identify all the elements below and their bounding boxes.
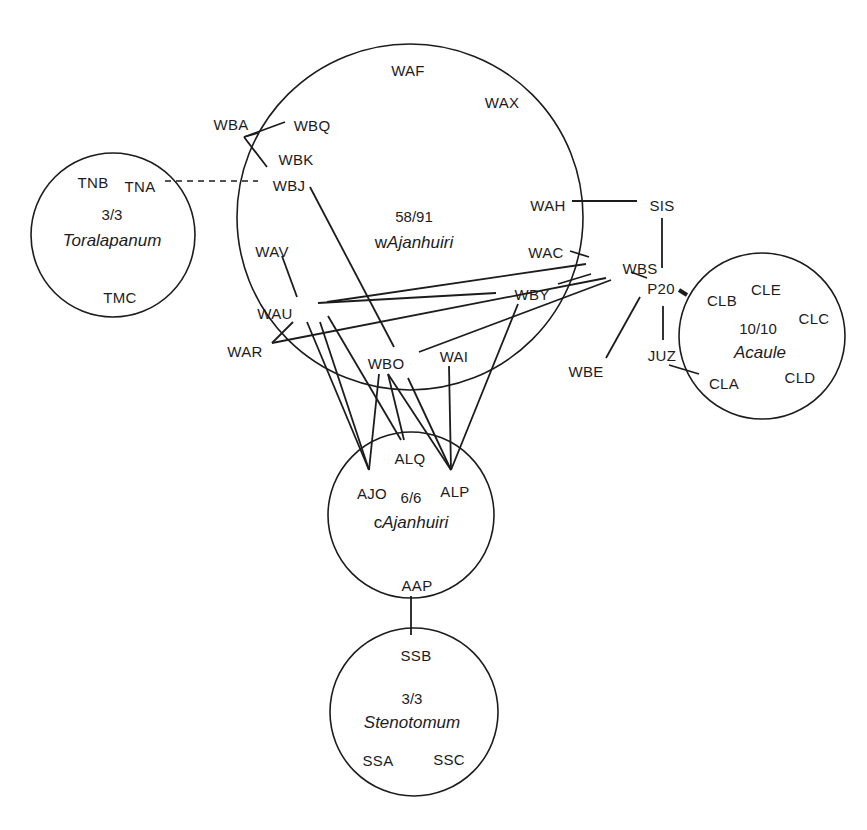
- node-ssa: SSA: [363, 752, 394, 769]
- edge-wav-wau: [282, 256, 297, 297]
- node-wai: WAI: [440, 348, 469, 365]
- node-wbk: WBK: [278, 151, 313, 168]
- group-name-text: Toralapanum: [63, 231, 162, 250]
- node-cld: CLD: [785, 369, 816, 386]
- node-clb: CLB: [707, 292, 737, 309]
- edges: [165, 122, 699, 635]
- group-circles: [31, 44, 845, 796]
- group-name-wajanhuiri: wAjanhuiri: [374, 233, 455, 252]
- edge-wau-wby: [318, 293, 496, 303]
- group-name-text: Ajanhuiri: [381, 513, 449, 532]
- node-ajo: AJO: [357, 485, 387, 502]
- group-name-text: Stenotomum: [364, 713, 460, 732]
- node-wah: WAH: [530, 197, 565, 214]
- node-war: WAR: [227, 343, 262, 360]
- diagram-svg: 58/91wAjanhuiri3/3Toralapanum10/10Acaule…: [0, 0, 867, 830]
- group-name-stenotomum: Stenotomum: [364, 713, 460, 732]
- group-count-wajanhuiri: 58/91: [395, 208, 433, 225]
- edge-p20-wbe: [606, 297, 640, 358]
- network-diagram: 58/91wAjanhuiri3/3Toralapanum10/10Acaule…: [0, 0, 867, 830]
- node-aap: AAP: [402, 577, 433, 594]
- node-alq: ALQ: [395, 450, 426, 467]
- node-clc: CLC: [799, 310, 830, 327]
- node-wau: WAU: [257, 305, 292, 322]
- group-name-cajanhuiri: cAjanhuiri: [374, 513, 450, 532]
- group-count-stenotomum: 3/3: [402, 690, 423, 707]
- group-prefix: w: [374, 233, 388, 252]
- edge-wai-alp: [449, 366, 451, 470]
- group-count-cajanhuiri: 6/6: [401, 489, 422, 506]
- group-name-text: Acaule: [733, 343, 786, 362]
- node-wbq: WBQ: [294, 117, 331, 134]
- node-waf: WAF: [391, 62, 425, 79]
- node-alp: ALP: [440, 483, 469, 500]
- node-wbj: WBJ: [273, 177, 306, 194]
- node-ssc: SSC: [433, 751, 465, 768]
- edge-wby-alp: [451, 304, 518, 470]
- node-wax: WAX: [485, 94, 520, 111]
- node-tnb: TNB: [78, 174, 109, 191]
- node-cla: CLA: [709, 375, 739, 392]
- node-tna: TNA: [125, 178, 156, 195]
- edge-wau-ajo: [307, 322, 369, 470]
- node-juz: JUZ: [648, 347, 676, 364]
- node-ssb: SSB: [401, 647, 432, 664]
- edge-wbj-wbo: [310, 187, 394, 347]
- node-labels: WAFWAXWBAWBQWBKWBJTNBTNATMCWAHSISWAVWACW…: [78, 62, 830, 769]
- node-tmc: TMC: [103, 289, 136, 306]
- group-count-toralapanum: 3/3: [102, 206, 123, 223]
- group-name-text: Ajanhuiri: [386, 233, 454, 252]
- group-name-toralapanum: Toralapanum: [63, 231, 162, 250]
- edge-p20-clb: [679, 290, 687, 295]
- edge-wba-wbk: [244, 137, 267, 167]
- group-count-acaule: 10/10: [739, 320, 777, 337]
- node-p20: P20: [647, 280, 675, 297]
- node-wav: WAV: [255, 243, 288, 260]
- node-sis: SIS: [649, 197, 674, 214]
- node-wby: WBY: [514, 286, 549, 303]
- node-cle: CLE: [751, 281, 781, 298]
- node-wbs: WBS: [622, 260, 657, 277]
- group-name-acaule: Acaule: [733, 343, 786, 362]
- node-wbo: WBO: [368, 355, 405, 372]
- node-wba: WBA: [213, 116, 248, 133]
- node-wac: WAC: [528, 244, 563, 261]
- node-wbe: WBE: [568, 363, 603, 380]
